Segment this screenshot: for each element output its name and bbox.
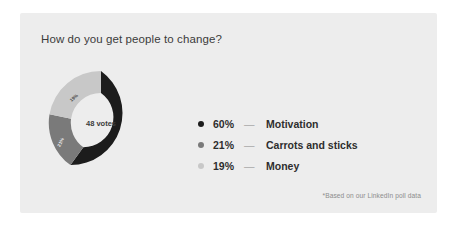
legend-item-carrots-and-sticks[interactable]: 21% — Carrots and sticks: [198, 134, 358, 155]
legend-dot-icon: [198, 121, 204, 127]
legend-dot-icon: [198, 163, 204, 169]
screenshot-root: How do you get people to change? 60% 21%…: [0, 0, 460, 228]
donut-chart: 60% 21% 19% 48 votes: [48, 70, 154, 176]
page-title: How do you get people to change?: [41, 33, 222, 45]
donut-chart-svg: 60% 21% 19%: [48, 70, 154, 176]
donut-segment-label-motivation: 60%: [136, 145, 146, 153]
legend-label: Money: [266, 160, 299, 172]
legend-dash: —: [244, 160, 266, 172]
legend-dash: —: [244, 118, 266, 130]
legend-percent: 60%: [213, 118, 244, 130]
legend-dot-icon: [198, 142, 204, 148]
legend-dash: —: [244, 139, 266, 151]
legend-percent: 21%: [213, 139, 244, 151]
legend-item-money[interactable]: 19% — Money: [198, 155, 358, 176]
legend-item-motivation[interactable]: 60% — Motivation: [198, 113, 358, 134]
legend-label: Motivation: [266, 118, 319, 130]
poll-card: How do you get people to change? 60% 21%…: [20, 13, 437, 213]
legend-percent: 19%: [213, 160, 244, 172]
footnote: *Based on our LinkedIn poll data: [322, 192, 421, 199]
legend-label: Carrots and sticks: [266, 139, 358, 151]
legend: 60% — Motivation 21% — Carrots and stick…: [198, 113, 358, 176]
